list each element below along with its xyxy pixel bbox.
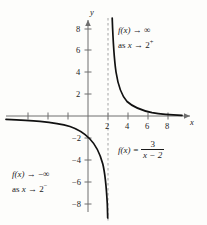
y-tick-label-2: 2 <box>76 90 80 99</box>
y-tick-label-neg2: −2 <box>72 134 81 143</box>
x-tick-label-8: 8 <box>165 122 169 131</box>
annotation-limit-left-line1: f(x) → −∞ <box>12 169 50 179</box>
x-tick-label-2: 2 <box>105 122 109 131</box>
annotation-limit-left-line2: as x → 2− <box>12 183 50 194</box>
y-tick-label-6: 6 <box>76 46 80 55</box>
equation-fraction: 3 x − 2 <box>141 140 164 161</box>
y-tick-label-neg8: −8 <box>72 200 81 209</box>
x-tick-label-4: 4 <box>125 122 129 131</box>
function-equation-label: f(x) = 3 x − 2 <box>118 140 164 161</box>
annotation-limit-left: f(x) → −∞ as x → 2− <box>12 170 50 194</box>
annotation-limit-right-line2: as x → 2+ <box>118 39 153 50</box>
y-tick-label-4: 4 <box>76 68 80 77</box>
y-tick-label-8: 8 <box>76 25 80 34</box>
x-tick-label-6: 6 <box>145 122 149 131</box>
y-tick-label-neg6: −6 <box>72 178 81 187</box>
equation-numerator: 3 <box>141 140 164 149</box>
figure-rational-function: x y 2 4 6 8 8 6 4 2 −2 −4 −6 −8 f(x) → ∞… <box>0 0 207 225</box>
y-tick-label-neg4: −4 <box>72 156 81 165</box>
x-axis-label: x <box>190 118 194 127</box>
y-axis-arrowhead <box>85 20 91 26</box>
annotation-limit-right: f(x) → ∞ as x → 2+ <box>118 26 153 50</box>
y-axis-label: y <box>90 8 94 17</box>
equation-denominator: x − 2 <box>141 151 164 160</box>
annotation-limit-right-line1: f(x) → ∞ <box>118 25 150 35</box>
